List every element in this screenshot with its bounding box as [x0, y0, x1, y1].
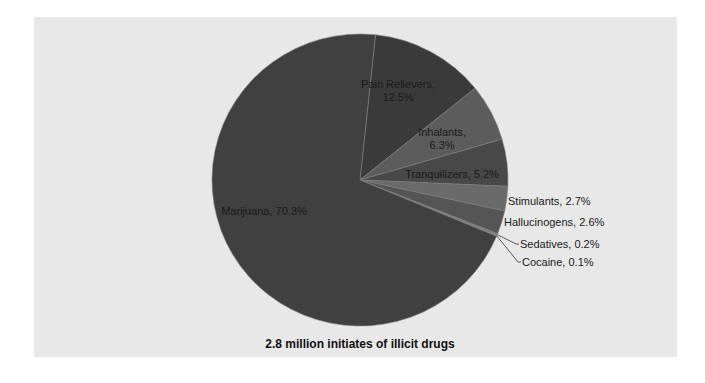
slice-label: Stimulants, 2.7% — [508, 195, 591, 207]
slice-label: Cocaine, 0.1% — [522, 256, 594, 268]
leader-line — [497, 235, 519, 244]
chart-title: 2.8 million initiates of illicit drugs — [265, 337, 455, 351]
pie-chart: Pain Relievers,12.5%Inhalants,6.3%Tranqu… — [0, 0, 705, 383]
leader-line — [497, 236, 521, 262]
slice-label: Hallucinogens, 2.6% — [504, 216, 605, 228]
slice-label: Sedatives, 0.2% — [520, 238, 600, 250]
leader-lines — [497, 235, 521, 262]
slice-label: Marijuana, 70.3% — [221, 205, 307, 217]
slice-label: Tranquilizers, 5.2% — [405, 168, 499, 180]
